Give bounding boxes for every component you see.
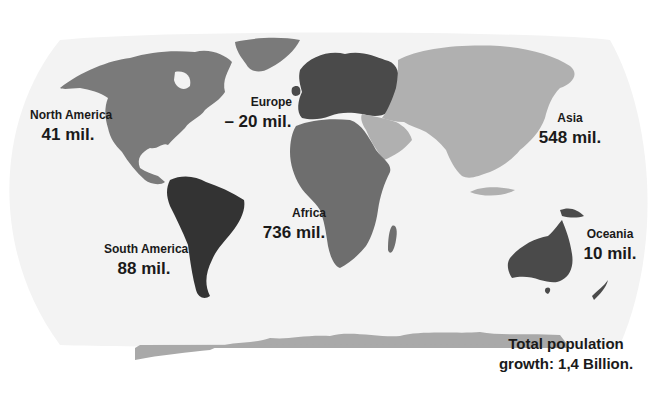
- label-south-america: South America 88 mil.: [104, 243, 184, 277]
- region-value: – 20 mil.: [222, 113, 294, 130]
- region-name: Oceania: [582, 228, 638, 240]
- region-name: Asia: [537, 112, 603, 124]
- region-value: 548 mil.: [537, 129, 603, 146]
- region-name: North America: [30, 109, 106, 121]
- region-name: South America: [104, 243, 184, 255]
- europe: [298, 53, 398, 120]
- total-line-2: growth: 1,4 Billion.: [492, 354, 640, 374]
- region-value: 736 mil.: [262, 224, 326, 241]
- region-value: 41 mil.: [30, 126, 106, 143]
- region-name: Europe: [222, 96, 294, 108]
- label-europe: Europe – 20 mil.: [222, 96, 294, 130]
- total-population-growth: Total population growth: 1,4 Billion.: [492, 334, 640, 374]
- label-oceania: Oceania 10 mil.: [582, 228, 638, 262]
- region-value: 88 mil.: [104, 260, 184, 277]
- label-africa: Africa 736 mil.: [262, 207, 326, 241]
- label-asia: Asia 548 mil.: [537, 112, 603, 146]
- total-line-1: Total population: [492, 334, 640, 354]
- region-name: Africa: [262, 207, 326, 219]
- label-north-america: North America 41 mil.: [30, 109, 106, 143]
- region-value: 10 mil.: [582, 245, 638, 262]
